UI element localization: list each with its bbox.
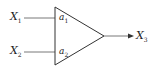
weight-label-2: a2 <box>59 47 68 58</box>
diagram-canvas <box>0 0 150 70</box>
input-label-1: X1 <box>10 11 22 24</box>
output-label: X3 <box>136 30 148 43</box>
weight-label-1: a1 <box>59 13 68 24</box>
output-arrowhead-icon <box>128 34 134 39</box>
input-label-2: X2 <box>10 45 22 58</box>
